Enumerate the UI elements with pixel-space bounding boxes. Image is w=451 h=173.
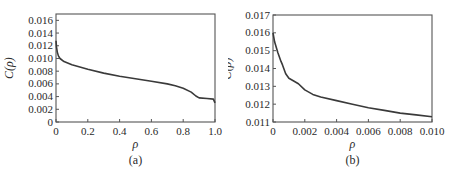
y-tick-label: 0.017 xyxy=(245,9,270,21)
x-tick-label: 0.002 xyxy=(292,125,317,137)
y-tick-label: 0.011 xyxy=(246,116,270,128)
y-axis-label: C(ρ) xyxy=(2,57,16,79)
x-tick-label: 0.8 xyxy=(176,125,190,137)
y-tick-label: 0.014 xyxy=(245,62,270,74)
x-axis-label: ρ xyxy=(132,137,139,151)
y-tick-label: 0.016 xyxy=(28,14,53,26)
x-tick-label: 0.010 xyxy=(420,125,445,137)
chart-a-svg: 00.0020.0040.0060.0080.0100.0120.0140.01… xyxy=(0,0,228,173)
y-tick-label: 0.016 xyxy=(245,26,270,38)
x-tick-label: 1.0 xyxy=(208,125,222,137)
y-tick-label: 0.014 xyxy=(28,27,53,39)
x-tick-label: 0 xyxy=(53,125,59,137)
plot-frame xyxy=(56,14,215,122)
x-tick-label: 0.6 xyxy=(145,125,159,137)
x-tick-label: 0.006 xyxy=(356,125,381,137)
x-tick-label: 0.004 xyxy=(324,125,349,137)
y-tick-label: 0.012 xyxy=(28,39,53,51)
panel-label: (a) xyxy=(129,153,142,167)
data-line xyxy=(56,41,215,103)
x-tick-label: 0.4 xyxy=(113,125,127,137)
plot-frame xyxy=(273,15,432,122)
x-tick-label: 0.2 xyxy=(81,125,95,137)
y-tick-label: 0.004 xyxy=(28,90,53,102)
panel-label: (b) xyxy=(346,153,360,167)
chart-panel-a: 00.0020.0040.0060.0080.0100.0120.0140.01… xyxy=(0,0,228,173)
y-tick-label: 0.012 xyxy=(245,98,270,110)
y-tick-label: 0.013 xyxy=(245,80,270,92)
chart-panel-b: 0.0110.0120.0130.0140.0150.0160.01700.00… xyxy=(228,0,451,173)
y-tick-label: 0.008 xyxy=(28,65,53,77)
y-tick-label: 0.010 xyxy=(28,52,53,64)
x-tick-label: 0 xyxy=(270,125,276,137)
chart-b-svg: 0.0110.0120.0130.0140.0150.0160.01700.00… xyxy=(228,0,451,173)
data-line xyxy=(273,33,432,117)
x-axis-label: ρ xyxy=(349,137,356,151)
x-tick-label: 0.008 xyxy=(388,125,413,137)
y-tick-label: 0.006 xyxy=(28,77,53,89)
y-tick-label: 0.002 xyxy=(28,103,53,115)
y-axis-label: C(ρ) xyxy=(228,58,234,80)
y-tick-label: 0.015 xyxy=(245,44,270,56)
